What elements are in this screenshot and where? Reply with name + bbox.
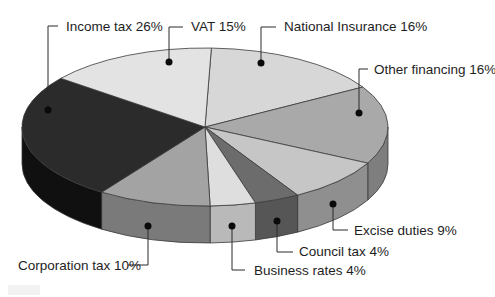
label-text: Other financing 16%: [374, 62, 495, 77]
label-text: Income tax 26%: [66, 19, 163, 34]
faint-caption-block: [8, 285, 40, 295]
marker-dot: [166, 59, 173, 66]
label-text: National Insurance 16%: [284, 19, 427, 34]
label-text: Excise duties 9%: [354, 223, 457, 238]
pie-chart: Income tax 26% VAT 15% National Insuranc…: [0, 0, 495, 297]
label-text: Corporation tax 10%: [18, 258, 141, 273]
label-text: Council tax 4%: [299, 244, 389, 259]
marker-dot: [274, 218, 281, 225]
label-text: Business rates 4%: [254, 263, 366, 278]
pie-top-faces: [22, 48, 388, 206]
marker-dot: [45, 107, 52, 114]
marker-dot: [229, 223, 236, 230]
marker-dot: [258, 60, 265, 67]
label-text: VAT 15%: [191, 19, 246, 34]
marker-dot: [145, 223, 152, 230]
marker-dot: [330, 201, 337, 208]
marker-dot: [356, 110, 363, 117]
